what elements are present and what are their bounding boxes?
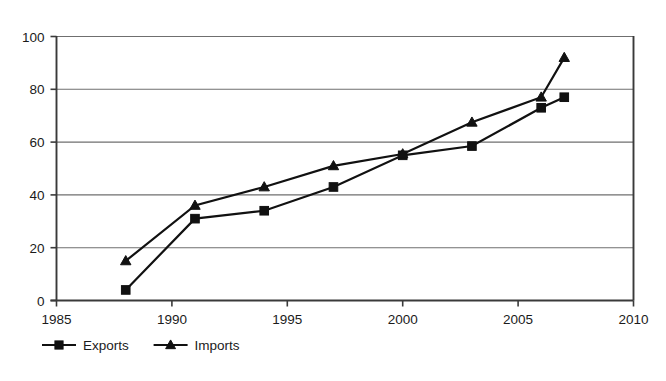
data-point-exports-1988 [121, 286, 130, 295]
y-tick-label-40: 40 [29, 188, 44, 203]
square-marker-icon [55, 341, 63, 349]
y-tick-label-100: 100 [22, 30, 45, 45]
data-point-exports-1994 [260, 206, 269, 215]
y-tick-label-80: 80 [29, 82, 44, 97]
y-tick-label-60: 60 [29, 135, 44, 150]
data-point-exports-2003 [468, 142, 477, 151]
data-point-exports-2007 [560, 93, 569, 102]
data-point-exports-1991 [191, 214, 200, 223]
chart-canvas: 020406080100 198519901995200020052010 Ex… [0, 0, 666, 381]
x-tick-label-2005: 2005 [503, 312, 533, 327]
line-chart: 020406080100 198519901995200020052010 Ex… [0, 0, 666, 381]
data-point-exports-2006 [537, 103, 546, 112]
y-tick-label-20: 20 [29, 241, 44, 256]
data-point-exports-1997 [329, 183, 338, 192]
legend-label-imports: Imports [195, 338, 240, 353]
legend-label-exports: Exports [83, 338, 129, 353]
y-tick-label-0: 0 [37, 294, 45, 309]
x-tick-label-1995: 1995 [272, 312, 302, 327]
x-tick-label-1990: 1990 [157, 312, 187, 327]
x-tick-label-2000: 2000 [388, 312, 418, 327]
x-tick-label-1985: 1985 [41, 312, 71, 327]
x-tick-label-2010: 2010 [618, 312, 648, 327]
